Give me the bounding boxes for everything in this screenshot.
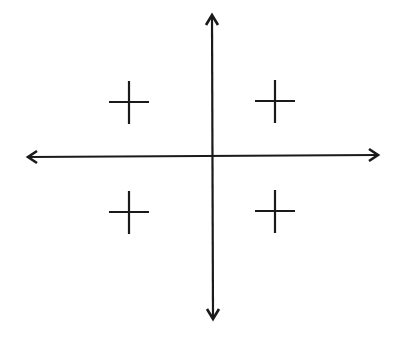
coordinate-plane-diagram xyxy=(0,0,400,343)
plus-sign-quadrant-4-icon xyxy=(255,190,295,233)
x-axis xyxy=(29,155,377,157)
plus-sign-quadrant-2-icon xyxy=(109,81,149,124)
plus-sign-quadrant-3-icon xyxy=(109,191,149,234)
y-axis xyxy=(212,16,213,318)
plus-sign-quadrant-1-icon xyxy=(255,80,295,123)
